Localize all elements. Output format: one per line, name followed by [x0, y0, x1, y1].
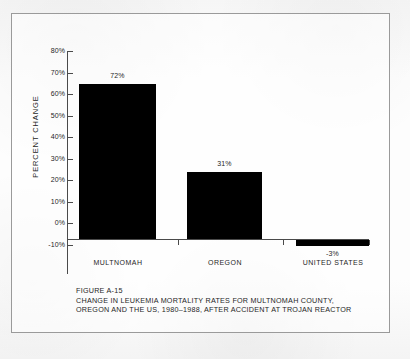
y-tick-0 [68, 223, 73, 224]
bar-value-multnomah: 72% [79, 72, 156, 80]
y-tick-label-10: 10% [31, 198, 65, 206]
bar-value-oregon: 31% [187, 160, 262, 168]
category-label-oregon: OREGON [180, 259, 270, 267]
y-tick-label-neg10: -10% [31, 241, 65, 249]
y-tick-label-20: 20% [31, 176, 65, 184]
figure-caption: FIGURE A-15 CHANGE IN LEUKEMIA MORTALITY… [76, 286, 352, 315]
bar-oregon[interactable] [187, 172, 262, 239]
caption-line-1: FIGURE A-15 [76, 286, 352, 296]
y-tick-label-40: 40% [31, 133, 65, 141]
x-tick-3 [369, 240, 370, 245]
y-tick-label-30: 30% [31, 155, 65, 163]
caption-line-3: OREGON AND THE US, 1980–1988, AFTER ACCI… [76, 305, 352, 315]
y-tick-10 [68, 202, 73, 203]
bar-united-states[interactable] [296, 240, 369, 246]
category-label-multnomah: MULTNOMAH [72, 259, 164, 267]
figure-page: PERCENT CHANGE 80% 70% 60% 50% 40% 30% 2… [0, 0, 410, 359]
y-tick-50 [68, 116, 73, 117]
y-tick-label-0: 0% [31, 219, 65, 227]
y-tick-label-80: 80% [31, 47, 65, 55]
y-tick-60 [68, 94, 73, 95]
bar-value-united-states: -3% [296, 250, 369, 258]
y-tick-30 [68, 159, 73, 160]
y-tick-label-50: 50% [31, 112, 65, 120]
category-label-united-states: UNITED STATES [288, 259, 378, 267]
x-tick-2 [283, 240, 284, 245]
figure-frame: PERCENT CHANGE 80% 70% 60% 50% 40% 30% 2… [11, 13, 390, 333]
y-tick-label-60: 60% [31, 90, 65, 98]
y-tick-neg10 [68, 245, 73, 246]
y-axis-line [67, 51, 68, 274]
y-tick-40 [68, 137, 73, 138]
bar-multnomah[interactable] [79, 84, 156, 239]
y-tick-80 [68, 51, 73, 52]
x-tick-1 [178, 240, 179, 245]
caption-line-2: CHANGE IN LEUKEMIA MORTALITY RATES FOR M… [76, 296, 352, 306]
y-tick-20 [68, 180, 73, 181]
y-tick-70 [68, 73, 73, 74]
y-tick-label-70: 70% [31, 69, 65, 77]
